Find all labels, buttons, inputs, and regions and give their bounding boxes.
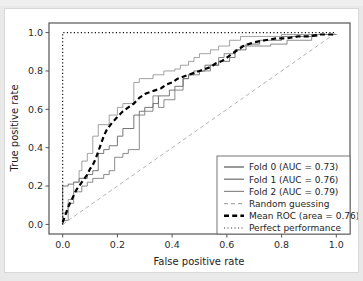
- y-tick-label: 0.4: [28, 142, 43, 153]
- screenshot-top-band: [0, 0, 363, 6]
- x-tick-label: 1.0: [329, 239, 344, 250]
- chart-legend: Fold 0 (AUC = 0.73)Fold 1 (AUC = 0.76)Fo…: [217, 156, 358, 234]
- x-tick-label: 0.0: [55, 239, 70, 250]
- x-tick-label: 0.4: [165, 239, 180, 250]
- legend-label: Fold 1 (AUC = 0.76): [249, 175, 338, 185]
- x-tick-label: 0.2: [110, 239, 125, 250]
- legend-label: Perfect performance: [249, 223, 341, 233]
- x-axis-ticks: 0.00.20.40.60.81.0: [55, 234, 344, 250]
- legend-label: Random guessing: [249, 199, 329, 209]
- roc-plot: 0.00.20.40.60.81.0 0.00.20.40.60.81.0 Fa…: [5, 9, 358, 272]
- y-tick-label: 1.0: [28, 27, 43, 38]
- y-tick-label: 0.2: [28, 180, 43, 191]
- roc-figure: 0.00.20.40.60.81.0 0.00.20.40.60.81.0 Fa…: [4, 8, 359, 273]
- y-axis-ticks: 0.00.20.40.60.81.0: [28, 27, 49, 230]
- legend-label: Fold 0 (AUC = 0.73): [249, 162, 338, 172]
- x-axis-label: False positive rate: [154, 256, 245, 267]
- legend-label: Mean ROC (area = 0.76): [249, 211, 358, 221]
- y-axis-label: True positive rate: [9, 84, 20, 172]
- legend-label: Fold 2 (AUC = 0.79): [249, 187, 338, 197]
- y-tick-label: 0.0: [28, 219, 43, 230]
- x-tick-label: 0.8: [274, 239, 289, 250]
- x-tick-label: 0.6: [219, 239, 234, 250]
- y-tick-label: 0.8: [28, 65, 43, 76]
- y-tick-label: 0.6: [28, 104, 43, 115]
